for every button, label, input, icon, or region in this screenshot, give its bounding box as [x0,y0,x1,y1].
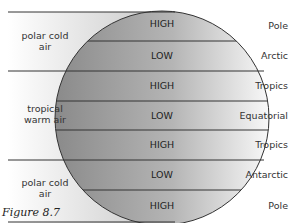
pressure-band-label: HIGH [122,18,202,29]
latitude-zone-label: Antarctic [245,169,288,180]
latitude-zone-label: Tropics [255,139,288,150]
air-mass-line: air [6,41,84,52]
air-mass-line: air [6,188,84,199]
figure-caption: Figure 8.7 [2,206,60,219]
air-mass-label: polar cold air [6,177,84,199]
latitude-zone-label: Tropics [255,80,288,91]
air-mass-label: polar cold air [6,30,84,52]
pressure-band-label: LOW [122,110,202,121]
air-mass-label: tropical warm air [6,103,84,125]
pressure-band-label: HIGH [122,200,202,211]
air-mass-line: warm air [6,114,84,125]
latitude-zone-label: Equatorial [240,110,288,121]
pressure-band-label: HIGH [122,80,202,91]
latitude-zone-label: Pole [268,20,288,31]
latitude-zone-label: Arctic [261,50,288,61]
pressure-band-label: LOW [122,50,202,61]
pressure-belt-diagram: polar cold air tropical warm air polar c… [0,0,291,223]
pressure-band-label: HIGH [122,139,202,150]
air-mass-line: polar cold [6,177,84,188]
latitude-zone-label: Pole [268,200,288,211]
pressure-band-label: LOW [122,169,202,180]
air-mass-line: polar cold [6,30,84,41]
air-mass-line: tropical [6,103,84,114]
